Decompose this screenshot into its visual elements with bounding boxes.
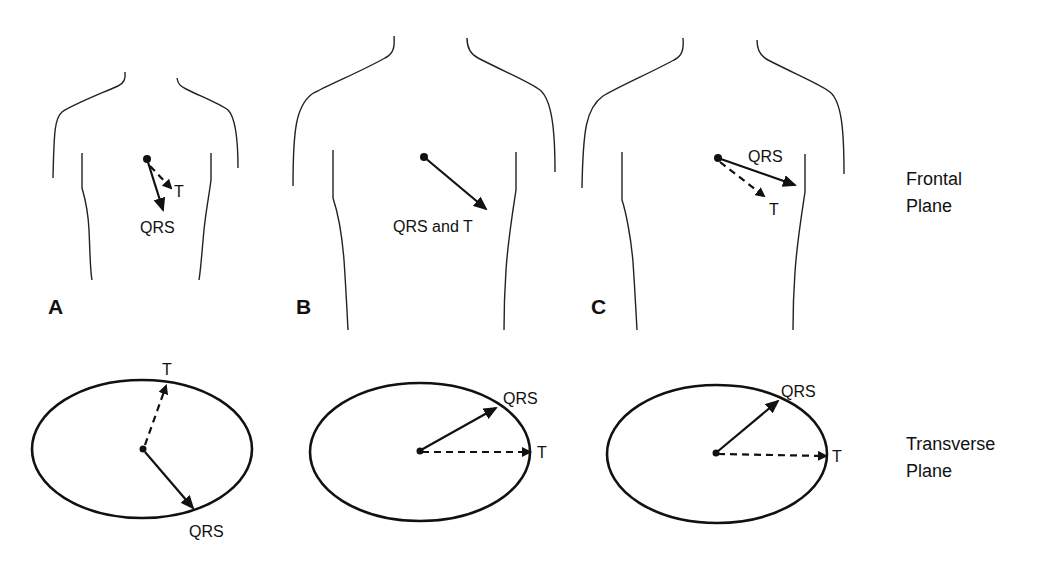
t-label: T — [162, 361, 172, 378]
qrs-vector-arrow — [145, 452, 193, 508]
qrs-label: QRS — [503, 390, 538, 407]
qrs-vector-arrow — [717, 401, 778, 452]
qrs-label: QRS — [189, 523, 224, 540]
origin-dot — [140, 446, 147, 453]
qrs-and-t-label: QRS and T — [393, 218, 473, 235]
qrs-vector-arrow — [421, 408, 496, 450]
qrs-and-t-vector-arrow — [424, 157, 486, 209]
panel-letter-a: A — [48, 295, 63, 318]
panel-letter-b: B — [296, 295, 311, 318]
panel-c-frontal: QRS T C — [582, 38, 844, 330]
panel-c-transverse: QRS T — [607, 383, 842, 523]
torso-outline-c — [582, 38, 844, 330]
transverse-plane-label-line1: Transverse — [906, 434, 995, 454]
panel-b-transverse: QRS T — [310, 383, 547, 521]
frontal-plane-label-line2: Plane — [906, 196, 952, 216]
torso-outline-a — [53, 72, 238, 280]
t-vector-arrow — [145, 386, 166, 445]
panel-letter-c: C — [591, 295, 606, 318]
panel-a-frontal: T QRS A — [48, 72, 238, 318]
torso-outline-b — [293, 36, 555, 330]
qrs-label: QRS — [140, 219, 175, 236]
transverse-plane-label-line2: Plane — [906, 461, 952, 481]
t-label: T — [832, 448, 842, 465]
panel-a-transverse: T QRS — [32, 361, 252, 540]
panel-b-frontal: QRS and T B — [293, 36, 555, 330]
qrs-label: QRS — [781, 383, 816, 400]
qrs-label: QRS — [748, 148, 783, 165]
t-label: T — [174, 183, 184, 200]
frontal-plane-label-line1: Frontal — [906, 169, 962, 189]
t-label: T — [537, 444, 547, 461]
t-label: T — [769, 201, 779, 218]
t-vector-arrow — [718, 454, 826, 456]
